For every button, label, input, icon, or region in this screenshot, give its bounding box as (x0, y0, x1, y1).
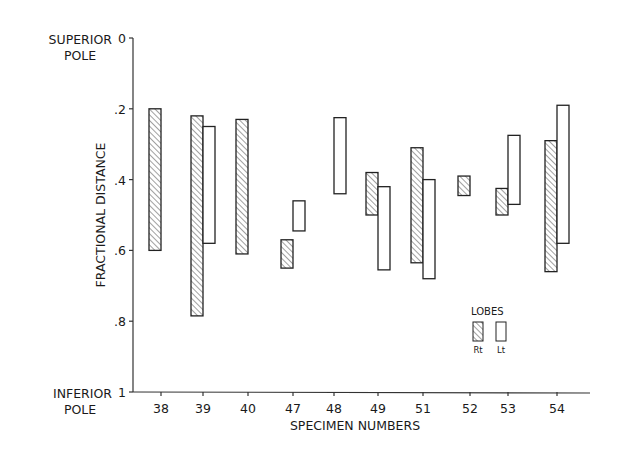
range-bar-chart: SUPERIOR POLE INFERIOR POLE FRACTIONAL D… (0, 0, 620, 454)
legend-title: LOBES (471, 306, 504, 317)
x-tick-label: 38 (153, 401, 169, 416)
legend-swatch-lt (496, 322, 506, 341)
x-tick-label: 52 (462, 401, 478, 416)
bar-lt-51 (423, 180, 435, 279)
bar-lt-39 (203, 127, 215, 244)
bar-lt-48 (334, 118, 346, 194)
legend-label-lt: Lt (497, 345, 506, 355)
bar-rt-40 (236, 119, 248, 254)
x-tick-label: 49 (370, 401, 386, 416)
bar-lt-54 (557, 105, 569, 243)
bar-rt-39 (191, 116, 203, 316)
bar-lt-47 (293, 201, 305, 231)
x-tick-label: 54 (549, 401, 565, 416)
y-tick-label: 1 (118, 385, 126, 400)
bars (149, 105, 569, 316)
bar-lt-49 (378, 187, 390, 270)
x-tick-label: 51 (415, 401, 431, 416)
y-top-label-line2: POLE (64, 48, 96, 63)
x-ticks: 38394047484951525354 (153, 392, 565, 416)
bar-lt-53 (508, 135, 520, 204)
legend: LOBES Rt Lt (471, 306, 506, 355)
legend-swatch-rt (473, 322, 483, 341)
y-tick-label: .4 (114, 173, 126, 188)
y-tick-label: .8 (114, 314, 126, 329)
bar-rt-53 (496, 188, 508, 215)
legend-label-rt: Rt (473, 345, 483, 355)
y-ticks: 0.2.4.6.81 (114, 31, 133, 400)
y-top-label-line1: SUPERIOR (49, 32, 113, 47)
y-tick-label: .6 (114, 243, 126, 258)
y-bottom-label-line1: INFERIOR (53, 386, 112, 401)
x-axis-title: SPECIMEN NUMBERS (290, 418, 420, 433)
x-tick-label: 39 (195, 401, 211, 416)
bar-rt-52 (458, 176, 470, 195)
y-tick-label: 0 (118, 31, 126, 46)
bar-rt-49 (366, 173, 378, 215)
x-tick-label: 53 (500, 401, 516, 416)
y-tick-label: .2 (114, 102, 126, 117)
x-axis-line (133, 392, 590, 393)
y-axis-title: FRACTIONAL DISTANCE (93, 142, 108, 287)
bar-rt-54 (545, 141, 557, 272)
x-tick-label: 48 (326, 401, 342, 416)
x-tick-label: 47 (285, 401, 301, 416)
bar-rt-38 (149, 109, 161, 251)
bar-rt-51 (411, 148, 423, 263)
bar-rt-47 (281, 240, 293, 268)
x-tick-label: 40 (240, 401, 256, 416)
y-bottom-label-line2: POLE (64, 402, 96, 417)
